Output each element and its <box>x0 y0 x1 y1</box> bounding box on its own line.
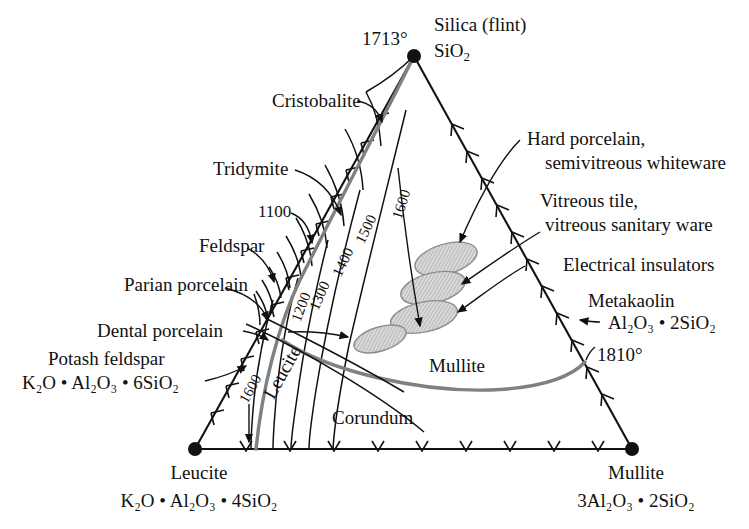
callout-electrical-insulators: Electrical insulators <box>563 254 714 276</box>
vertex-dot-mullite <box>625 442 639 456</box>
phase-label-mullite: Mullite <box>429 355 485 377</box>
phase-label-cristobalite: Cristobalite <box>272 90 361 112</box>
apex-name-silica: Silica (flint) <box>434 14 526 36</box>
vertex-formula-mullite: 3Al₂O₃ • 2SiO₂ <box>577 490 694 512</box>
phase-label-tridymite: Tridymite <box>213 158 288 180</box>
phase-label-corundum: Corundum <box>332 407 413 429</box>
leader-metakaolin <box>580 320 600 322</box>
vertex-formula-leucite: K₂O • Al₂O₃ • 4SiO₂ <box>121 490 278 512</box>
apex-temperature-silica: 1713° <box>362 28 408 50</box>
ternary-phase-diagram: 1713° Silica (flint) SiO2 Cristobalite T… <box>0 0 749 529</box>
leader-1810 <box>586 347 595 360</box>
isotherm-label-1100: 1100 <box>258 202 291 222</box>
apex-formula-silica: SiO2 <box>434 40 470 62</box>
vertex-name-mullite: Mullite <box>608 462 664 484</box>
callout-vitreous-sanitary-ware: vitreous sanitary ware <box>545 214 713 236</box>
formula-metakaolin: Al₂O₃ • 2SiO₂ <box>608 312 716 334</box>
callout-metakaolin: Metakaolin <box>588 290 675 312</box>
leader-electrical <box>458 266 525 312</box>
silica-formula-sub: 2 <box>464 49 470 64</box>
formula-potash-feldspar: K₂O • Al₂O₃ • 6SiO₂ <box>22 372 179 394</box>
edge-temperature-1810: 1810° <box>597 344 643 366</box>
phase-label-feldspar: Feldspar <box>199 235 264 257</box>
vertex-dot-silica <box>407 49 421 63</box>
callout-parian-porcelain: Parian porcelain <box>124 274 248 296</box>
callout-potash-feldspar: Potash feldspar <box>48 348 165 370</box>
callout-semivitreous-whiteware: semivitreous whiteware <box>545 152 726 174</box>
silica-formula-main: SiO <box>434 40 464 61</box>
vertex-name-leucite: Leucite <box>171 462 228 484</box>
callout-vitreous-tile: Vitreous tile, <box>540 190 638 212</box>
vertex-dot-leucite <box>188 442 202 456</box>
callout-hard-porcelain: Hard porcelain, <box>527 128 645 150</box>
callout-dental-porcelain: Dental porcelain <box>97 320 223 342</box>
